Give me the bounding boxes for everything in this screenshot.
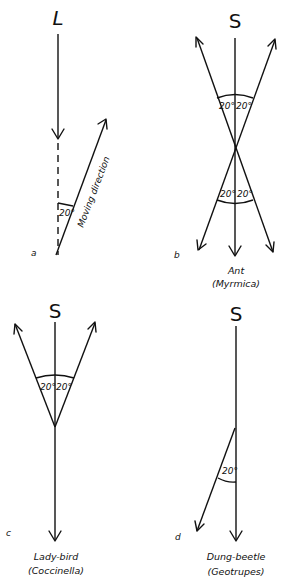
- diagonal-line-right-to-left: [199, 40, 275, 250]
- panel-a: L 20° Moving direction a: [31, 6, 112, 258]
- angle-label-upper-left: 20°: [219, 101, 235, 111]
- panel-b: S 20° 20° 20° 20° b Ant (Myrmica): [174, 9, 276, 289]
- species-latin-name: (Coccinella): [28, 565, 84, 576]
- panel-letter-d: d: [175, 532, 181, 542]
- angle-label: 20°: [59, 208, 75, 218]
- angle-label-right: 20°: [56, 382, 72, 392]
- panel-letter-a: a: [31, 248, 37, 258]
- panel-letter-b: b: [174, 250, 180, 260]
- panel-letter-c: c: [6, 528, 11, 538]
- panel-d: S 20° d Dung-beetle (Geotrupes): [175, 302, 266, 577]
- species-latin-name: (Geotrupes): [208, 566, 265, 577]
- sun-source-label: S: [230, 302, 243, 326]
- species-common-name: Dung-beetle: [207, 551, 266, 562]
- species-common-name: Lady-bird: [34, 551, 79, 562]
- orientation-diagram: L 20° Moving direction a S 20° 20° 20: [0, 0, 281, 584]
- moving-direction-label: Moving direction: [76, 155, 112, 229]
- species-common-name: Ant: [227, 265, 246, 276]
- angle-label-upper-right: 20°: [236, 101, 252, 111]
- angle-arc: [58, 203, 73, 206]
- angle-label-lower-left: 20°: [220, 189, 236, 199]
- angle-arc: [218, 478, 236, 482]
- panel-c: S 20° 20° c Lady-bird (Coccinella): [6, 299, 96, 576]
- angle-label-lower-right: 20°: [237, 189, 253, 199]
- light-source-label: L: [52, 6, 63, 30]
- sun-source-label: S: [229, 9, 242, 33]
- moving-direction-line: [197, 428, 235, 531]
- sun-source-label: S: [49, 299, 62, 323]
- species-latin-name: (Myrmica): [212, 278, 260, 289]
- angle-label: 20°: [222, 466, 238, 476]
- angle-label-left: 20°: [40, 382, 56, 392]
